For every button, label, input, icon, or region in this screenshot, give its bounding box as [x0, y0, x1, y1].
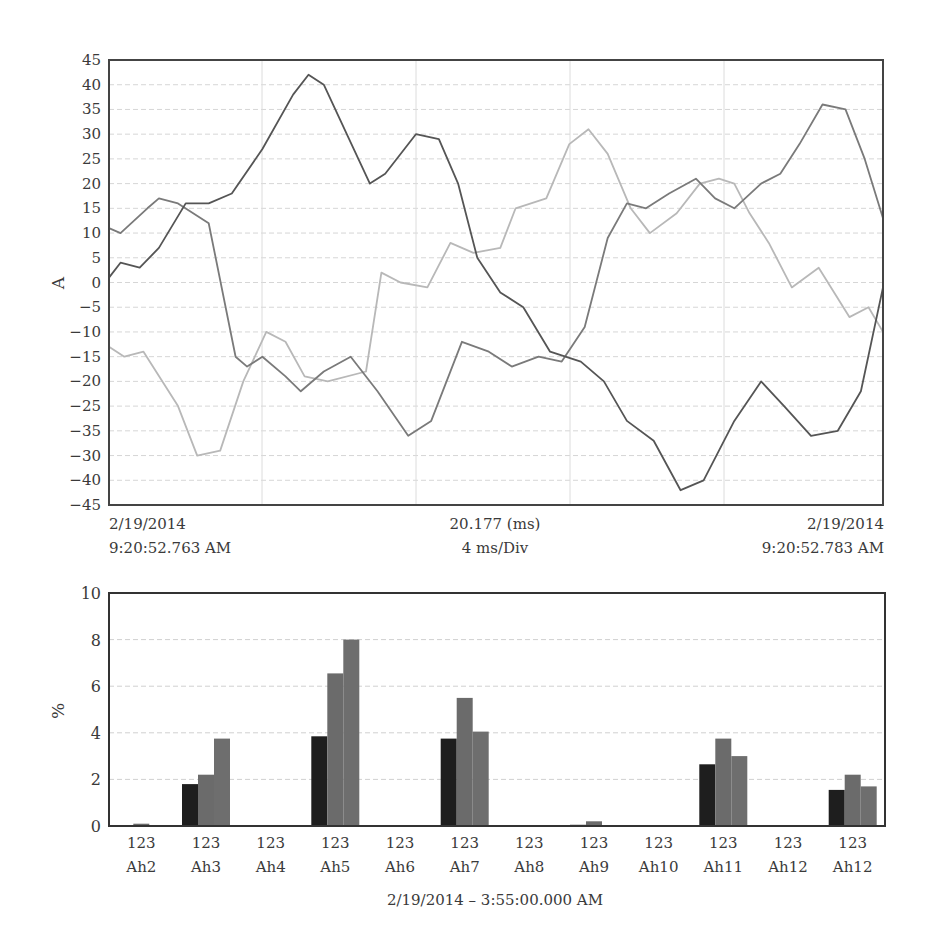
- bar-ah12-series-2: [845, 775, 861, 826]
- duration-label: 20.177 (ms): [450, 515, 541, 533]
- y-tick-label: 0: [91, 817, 101, 836]
- y-tick-label: 5: [91, 249, 101, 267]
- bar-category-labels: 123Ah2123Ah3123Ah4123Ah5123Ah6123Ah7123A…: [125, 834, 872, 876]
- y-tick-label: 20: [82, 175, 101, 193]
- category-sublabel: 123: [127, 834, 156, 852]
- start-date-label: 2/19/2014: [109, 515, 186, 533]
- figure: 454035302520151050−5−10−15−20−25−35−30−4…: [0, 0, 933, 946]
- y-tick-label: −25: [69, 397, 101, 415]
- bar-ah11-series-3: [731, 756, 747, 826]
- y-tick-label: −40: [69, 471, 101, 489]
- bar-x-axis-label: 2/19/2014 – 3:55:00.000 AM: [387, 891, 603, 909]
- bar-ah5-series-2: [327, 673, 343, 826]
- category-label: Ah12: [767, 858, 808, 876]
- category-sublabel: 123: [515, 834, 544, 852]
- waveform-trace-phase-3: [109, 129, 883, 455]
- y-tick-label: 15: [82, 199, 101, 217]
- category-label: Ah5: [319, 858, 350, 876]
- waveform-chart: 454035302520151050−5−10−15−20−25−35−30−4…: [48, 51, 884, 557]
- y-tick-label: −20: [69, 372, 101, 390]
- category-sublabel: 123: [386, 834, 415, 852]
- bar-ah3-series-2: [198, 775, 214, 826]
- y-tick-label: 8: [91, 631, 101, 650]
- bar-y-tick-labels: 1086420: [81, 584, 101, 836]
- end-time-label: 9:20:52.783 AM: [762, 539, 884, 557]
- category-sublabel: 123: [321, 834, 350, 852]
- bar-ah5-series-1: [311, 736, 327, 826]
- y-tick-label: −5: [79, 298, 101, 316]
- bar-ah3-series-3: [214, 739, 230, 826]
- bar-ah5-series-3: [343, 640, 359, 826]
- y-tick-label: −10: [69, 323, 101, 341]
- y-tick-label: 30: [82, 125, 101, 143]
- waveform-trace-phase-2: [109, 105, 883, 436]
- y-tick-label: −15: [69, 348, 101, 366]
- y-tick-label: 10: [81, 584, 101, 603]
- category-sublabel: 123: [774, 834, 803, 852]
- bar-ah7-series-1: [441, 739, 457, 826]
- bar-ah7-series-2: [457, 698, 473, 826]
- category-label: Ah4: [255, 858, 286, 876]
- y-tick-label: 0: [91, 274, 101, 292]
- waveform-y-axis-label: A: [48, 276, 68, 290]
- bar-ah11-series-2: [715, 739, 731, 826]
- category-label: Ah7: [449, 858, 480, 876]
- category-label: Ah12: [832, 858, 873, 876]
- category-sublabel: 123: [450, 834, 479, 852]
- y-tick-label: 4: [91, 724, 101, 743]
- bar-y-axis-label: %: [48, 703, 68, 719]
- category-label: Ah11: [703, 858, 744, 876]
- start-time-label: 9:20:52.763 AM: [109, 539, 231, 557]
- category-sublabel: 123: [709, 834, 738, 852]
- category-sublabel: 123: [256, 834, 285, 852]
- category-sublabel: 123: [838, 834, 867, 852]
- y-tick-label: 2: [91, 770, 101, 789]
- category-label: Ah8: [513, 858, 544, 876]
- y-tick-label: 6: [91, 677, 101, 696]
- category-sublabel: 123: [644, 834, 673, 852]
- bar-ah7-series-3: [473, 732, 489, 826]
- category-label: Ah6: [384, 858, 415, 876]
- bar-ah11-series-1: [699, 764, 715, 826]
- y-tick-label: 25: [82, 150, 101, 168]
- end-date-label: 2/19/2014: [807, 515, 884, 533]
- category-label: Ah9: [578, 858, 609, 876]
- y-tick-label: 45: [82, 51, 101, 69]
- waveform-y-tick-labels: 454035302520151050−5−10−15−20−25−35−30−4…: [69, 51, 101, 514]
- y-tick-label: −35: [69, 422, 101, 440]
- category-label: Ah10: [638, 858, 679, 876]
- category-sublabel: 123: [192, 834, 221, 852]
- bar-ah12-series-3: [861, 786, 877, 826]
- harmonics-bar-chart: 1086420 % 123Ah2123Ah3123Ah4123Ah5123Ah6…: [48, 584, 885, 909]
- y-tick-label: −30: [69, 447, 101, 465]
- bar-ah12-series-1: [829, 790, 845, 826]
- time-per-division-label: 4 ms/Div: [462, 539, 529, 557]
- y-tick-label: 40: [82, 76, 101, 94]
- category-sublabel: 123: [580, 834, 609, 852]
- category-label: Ah3: [190, 858, 221, 876]
- y-tick-label: 10: [82, 224, 101, 242]
- y-tick-label: 35: [82, 100, 101, 118]
- y-tick-label: −45: [69, 496, 101, 514]
- category-label: Ah2: [125, 858, 156, 876]
- bar-ah3-series-1: [182, 784, 198, 826]
